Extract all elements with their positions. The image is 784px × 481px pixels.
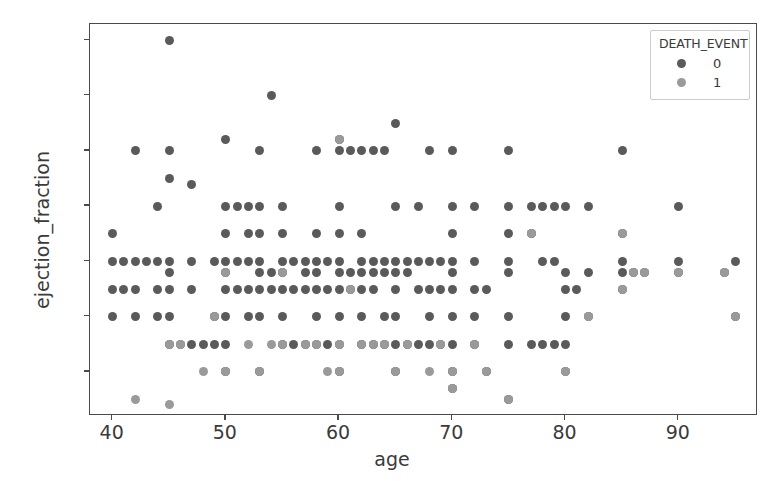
data-point <box>403 340 412 349</box>
data-point <box>142 257 151 266</box>
x-tick-mark <box>224 415 225 420</box>
x-axis-label: age <box>0 448 784 470</box>
data-point <box>301 285 310 294</box>
data-point <box>538 202 547 211</box>
data-point <box>369 285 378 294</box>
data-point <box>278 340 287 349</box>
data-point <box>165 340 174 349</box>
data-point <box>221 135 230 144</box>
data-point <box>482 285 491 294</box>
data-point <box>357 340 366 349</box>
data-point <box>391 285 400 294</box>
data-point <box>584 202 593 211</box>
data-point <box>618 257 627 266</box>
data-point <box>210 340 219 349</box>
data-point <box>403 257 412 266</box>
data-point <box>527 202 536 211</box>
data-point <box>470 202 479 211</box>
data-point <box>346 285 355 294</box>
data-point <box>221 340 230 349</box>
data-point <box>357 229 366 238</box>
data-point <box>550 340 559 349</box>
data-point <box>538 340 547 349</box>
data-point <box>210 257 219 266</box>
data-point <box>380 340 389 349</box>
data-point <box>561 268 570 277</box>
data-point <box>165 285 174 294</box>
data-point <box>504 340 513 349</box>
data-point <box>629 268 638 277</box>
data-point <box>108 229 117 238</box>
x-tick-label: 70 <box>411 421 491 443</box>
data-point <box>312 257 321 266</box>
scatter-plot-figure: ejection_fraction age 20304050607080 405… <box>0 0 784 481</box>
data-point <box>391 268 400 277</box>
data-point <box>448 202 457 211</box>
data-point <box>584 268 593 277</box>
legend-entry: 1 <box>659 73 741 92</box>
data-point <box>267 340 276 349</box>
data-point <box>131 257 140 266</box>
data-point <box>391 312 400 321</box>
data-point <box>244 257 253 266</box>
data-point <box>165 36 174 45</box>
x-tick-mark <box>564 415 565 420</box>
data-point <box>369 146 378 155</box>
data-point <box>278 229 287 238</box>
x-tick-mark <box>337 415 338 420</box>
data-point <box>731 257 740 266</box>
x-tick-mark <box>677 415 678 420</box>
data-point <box>278 268 287 277</box>
data-point <box>255 229 264 238</box>
data-point <box>335 135 344 144</box>
data-point <box>289 285 298 294</box>
data-point <box>335 312 344 321</box>
data-point <box>301 257 310 266</box>
data-point <box>221 367 230 376</box>
data-point <box>380 268 389 277</box>
data-point <box>153 285 162 294</box>
data-point <box>369 268 378 277</box>
data-point <box>176 340 185 349</box>
data-point <box>255 146 264 155</box>
data-point <box>131 285 140 294</box>
data-point <box>561 312 570 321</box>
data-point <box>504 395 513 404</box>
y-axis-label: ejection_fraction <box>31 100 53 360</box>
data-point <box>221 257 230 266</box>
data-point <box>504 202 513 211</box>
data-point <box>572 285 581 294</box>
data-point <box>131 312 140 321</box>
data-point <box>550 202 559 211</box>
data-point <box>674 202 683 211</box>
data-point <box>267 91 276 100</box>
data-point <box>414 340 423 349</box>
data-point <box>425 285 434 294</box>
data-point <box>244 312 253 321</box>
data-point <box>221 229 230 238</box>
data-point <box>504 229 513 238</box>
data-point <box>425 312 434 321</box>
data-point <box>584 312 593 321</box>
data-point <box>403 268 412 277</box>
data-point <box>187 257 196 266</box>
data-point <box>199 340 208 349</box>
data-point <box>255 202 264 211</box>
data-point <box>255 268 264 277</box>
data-point <box>278 285 287 294</box>
data-point <box>335 268 344 277</box>
data-point <box>436 340 445 349</box>
data-point <box>335 367 344 376</box>
data-point <box>448 312 457 321</box>
data-point <box>448 229 457 238</box>
data-point <box>425 367 434 376</box>
data-point <box>414 285 423 294</box>
data-point <box>312 340 321 349</box>
data-point <box>312 312 321 321</box>
data-point <box>425 340 434 349</box>
data-point <box>448 340 457 349</box>
data-point <box>165 174 174 183</box>
data-point <box>470 285 479 294</box>
data-point <box>561 367 570 376</box>
data-point <box>369 257 378 266</box>
